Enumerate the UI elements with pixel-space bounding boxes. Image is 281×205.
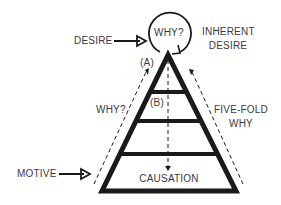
inherent-desire-line1: INHERENT (202, 26, 254, 38)
motive-label: MOTIVE (17, 168, 57, 180)
left-dashed-line (94, 72, 146, 184)
circle-arrowhead-icon (172, 45, 180, 54)
center-arrowhead-icon (165, 166, 171, 171)
fivefold-why-line2: WHY (212, 118, 270, 130)
why-circle-label: WHY? (154, 27, 184, 39)
causation-label: CAUSATION (134, 173, 204, 185)
why-left-label: WHY? (96, 104, 126, 116)
point-b-label: (B) (150, 97, 164, 109)
fivefold-why-line1: FIVE-FOLD (212, 104, 270, 116)
desire-label: DESIRE (74, 35, 112, 47)
pyramid-diagram: DESIRE WHY? INHERENT DESIRE (A) (B) WHY?… (0, 0, 281, 205)
inherent-desire-line2: DESIRE (202, 40, 254, 52)
point-a-label: (A) (140, 57, 154, 69)
